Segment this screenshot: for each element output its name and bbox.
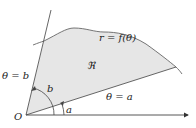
polar-region-diagram: r = f(θ) ℜ θ = b θ = a b a O [0, 0, 196, 128]
label-curve: r = f(θ) [99, 32, 136, 43]
label-ray-a: θ = a [106, 91, 133, 102]
label-angle-a: a [66, 104, 72, 115]
label-region: ℜ [87, 60, 96, 71]
label-origin: O [14, 111, 22, 122]
label-ray-b: θ = b [2, 70, 29, 81]
label-angle-b: b [47, 83, 53, 94]
